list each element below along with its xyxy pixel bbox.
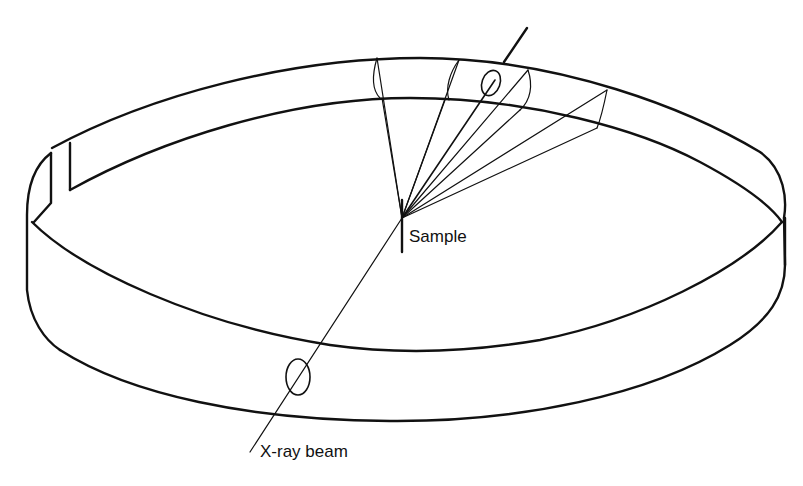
ring-front-top-edge bbox=[32, 222, 782, 351]
diffraction-rays bbox=[374, 58, 607, 218]
film-slot-left-fragment bbox=[34, 153, 51, 222]
ring-front-bottom-edge bbox=[60, 218, 785, 421]
debye-scherrer-diagram bbox=[0, 0, 803, 486]
ring-left-side bbox=[27, 153, 60, 350]
sample-label: Sample bbox=[409, 228, 467, 245]
exit-hole bbox=[478, 68, 504, 99]
entrance-hole bbox=[286, 359, 310, 395]
ring-right-side bbox=[784, 218, 785, 265]
exit-beam-line bbox=[504, 28, 527, 62]
xray-beam-label: X-ray beam bbox=[260, 443, 348, 460]
